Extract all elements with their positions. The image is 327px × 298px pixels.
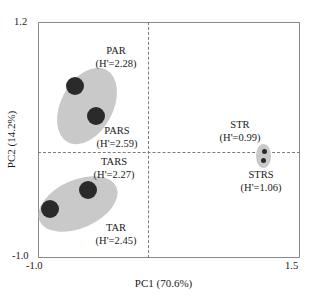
data-point-pars-1 <box>87 107 105 125</box>
annotation-strs-code: STRS <box>222 168 300 181</box>
pca-scatter-figure: PAR (H'=2.28) PARS (H'=2.59) TARS (H'=2.… <box>0 0 327 298</box>
x-axis-tick-right: 1.5 <box>285 261 298 272</box>
data-point-tars-1 <box>79 181 97 199</box>
annotation-tar: TAR (H'=2.45) <box>82 221 150 247</box>
annotation-par-diversity: (H'=2.28) <box>82 57 150 70</box>
annotation-par: PAR (H'=2.28) <box>82 44 150 70</box>
annotation-tars-code: TARS <box>80 155 148 168</box>
data-point-tar-1 <box>41 200 59 218</box>
x-axis-tick-left: -1.0 <box>26 261 43 272</box>
annotation-str: STR (H'=0.99) <box>203 118 277 144</box>
annotation-tar-code: TAR <box>82 221 150 234</box>
annotation-str-code: STR <box>203 118 277 131</box>
annotation-par-code: PAR <box>82 44 150 57</box>
annotation-strs-diversity: (H'=1.06) <box>222 181 300 194</box>
data-point-par-1 <box>66 77 84 95</box>
data-point-str-1 <box>262 149 267 154</box>
x-axis-title: PC1 (70.6%) <box>0 278 327 289</box>
annotation-pars-diversity: (H'=2.59) <box>83 137 151 150</box>
annotation-tar-diversity: (H'=2.45) <box>82 234 150 247</box>
annotation-pars-code: PARS <box>83 124 151 137</box>
annotation-strs: STRS (H'=1.06) <box>222 168 300 194</box>
data-point-strs-1 <box>261 158 266 163</box>
y-axis-title: PC2 (14.2%) <box>6 80 17 200</box>
annotation-tars-diversity: (H'=2.27) <box>80 168 148 181</box>
cluster-ellipse-str <box>256 144 271 168</box>
annotation-tars: TARS (H'=2.27) <box>80 155 148 181</box>
annotation-str-diversity: (H'=0.99) <box>203 131 277 144</box>
annotation-pars: PARS (H'=2.59) <box>83 124 151 150</box>
y-axis-tick-top: 1.2 <box>14 17 27 28</box>
